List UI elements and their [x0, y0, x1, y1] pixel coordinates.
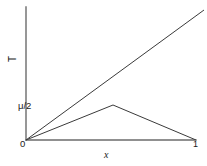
- x-max-tick-label: 1: [193, 140, 198, 149]
- figure-container: T μ/2 0 1 x: [0, 0, 207, 166]
- x-axis-label: x: [104, 150, 108, 160]
- y-axis-label: T: [8, 56, 18, 62]
- origin-tick-label: 0: [20, 139, 25, 149]
- tent-profile-line: [26, 105, 196, 140]
- plot-canvas: [0, 0, 207, 166]
- mu-half-label: μ/2: [18, 101, 31, 111]
- upper-ray-line: [26, 10, 204, 140]
